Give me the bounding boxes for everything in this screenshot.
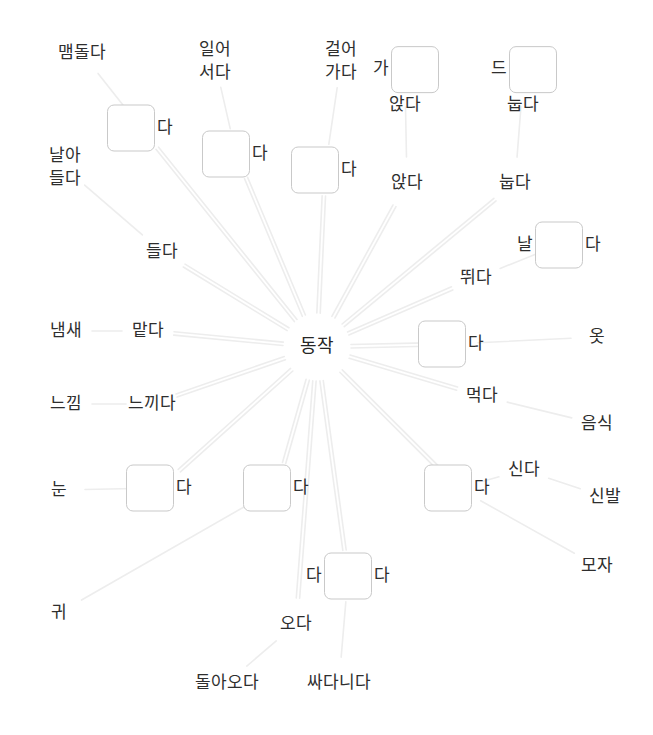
word-label-naradeulda: 날아들다	[49, 145, 81, 191]
blank-answer-box[interactable]	[202, 131, 250, 178]
blank-answer-box[interactable]	[324, 553, 372, 600]
word-label-gwi: 귀	[51, 603, 67, 624]
node-layer: 동작맴돌다다날아들다들다냄새맡다느낌느끼다눈다귀다다다오다돌아오다싸다니다일어서…	[0, 0, 653, 735]
word-label-oda: 오다	[280, 614, 312, 635]
word-label-eumsik: 음식	[581, 414, 613, 435]
word-label-ireoseoda: 일어서다	[199, 39, 231, 85]
suffix-word: 앉다	[387, 93, 423, 116]
word-label-matda: 맡다	[132, 321, 164, 342]
suffix-syllable: 다	[174, 478, 194, 499]
blank-answer-box[interactable]	[391, 46, 439, 93]
blank-answer-box[interactable]	[424, 465, 472, 512]
suffix-syllable: 다	[155, 118, 175, 139]
suffix-syllable: 다	[291, 478, 311, 499]
suffix-syllable: 다	[466, 334, 486, 355]
blank-answer-box[interactable]	[509, 46, 557, 93]
word-label-deulda: 들다	[146, 242, 178, 263]
word-label-line: 일어	[199, 39, 231, 62]
word-label-neukkida: 느끼다	[128, 394, 177, 415]
word-label-line: 들다	[49, 168, 81, 191]
blank-answer-box[interactable]	[107, 105, 155, 152]
suffix-syllable: 다	[372, 566, 392, 587]
blank-answer-box[interactable]	[126, 465, 174, 512]
word-label-ssadanida: 싸다니다	[307, 673, 372, 694]
word-label-line: 가다	[325, 62, 357, 85]
word-label-neukkim: 느낌	[50, 394, 82, 415]
word-label-ot: 옷	[589, 327, 605, 348]
word-label-maemdolda: 맴돌다	[58, 43, 107, 64]
word-label-naemsae: 냄새	[50, 321, 82, 342]
word-label-georeogada: 걸어가다	[325, 39, 357, 85]
blank-answer-box[interactable]	[535, 222, 583, 269]
prefix-syllable: 드	[489, 59, 509, 80]
word-association-diagram: 동작맴돌다다날아들다들다냄새맡다느낌느끼다눈다귀다다다오다돌아오다싸다니다일어서…	[0, 0, 653, 735]
word-label-sinbal: 신발	[589, 487, 621, 508]
suffix-syllable: 다	[472, 478, 492, 499]
blank-box-group-box-anjda[interactable]: 가앉다	[371, 46, 439, 116]
blank-box-group-box-nun[interactable]: 다	[126, 465, 194, 512]
word-label-ttwida: 뛰다	[460, 268, 492, 289]
blank-box-group-box-danida[interactable]: 다다	[304, 553, 392, 600]
blank-box-group-box-deut[interactable]: 다	[243, 465, 311, 512]
word-label-line: 걸어	[325, 39, 357, 62]
blank-answer-box[interactable]	[243, 465, 291, 512]
suffix-syllable: 다	[250, 144, 270, 165]
blank-box-group-box-nupda[interactable]: 드눕다	[489, 46, 557, 116]
word-label-meokda: 먹다	[466, 386, 498, 407]
blank-box-group-box-sinda[interactable]: 다	[424, 465, 492, 512]
suffix-word: 눕다	[505, 93, 541, 116]
word-label-moja: 모자	[581, 556, 613, 577]
prefix-syllable: 다	[304, 566, 324, 587]
hub-node-dongjak: 동작	[300, 336, 334, 358]
prefix-syllable: 가	[371, 59, 391, 80]
blank-box-group-box-gada[interactable]: 다	[291, 147, 359, 194]
blank-box-group-box-seoda[interactable]: 다	[202, 131, 270, 178]
word-label-doraoda: 돌아오다	[195, 673, 260, 694]
word-label-sinda: 신다	[508, 460, 540, 481]
blank-answer-box[interactable]	[418, 321, 466, 368]
prefix-syllable: 날	[515, 235, 535, 256]
word-label-line: 날아	[49, 145, 81, 168]
blank-box-group-box-ipda[interactable]: 다	[418, 321, 486, 368]
suffix-syllable: 다	[583, 235, 603, 256]
word-label-anjda: 앉다	[391, 173, 423, 194]
word-label-nun: 눈	[51, 480, 67, 501]
word-label-line: 서다	[199, 62, 231, 85]
blank-box-group-box-nalda[interactable]: 날다	[515, 222, 603, 269]
blank-box-group-box-maemdol[interactable]: 다	[107, 105, 175, 152]
suffix-syllable: 다	[339, 160, 359, 181]
word-label-nupda: 눕다	[499, 173, 531, 194]
blank-answer-box[interactable]	[291, 147, 339, 194]
